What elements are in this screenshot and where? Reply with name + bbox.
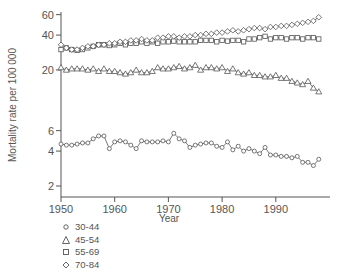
data-point-diamond: [192, 32, 198, 38]
data-point-circle: [75, 142, 79, 146]
data-point-square: [166, 40, 170, 44]
data-point-circle: [70, 143, 74, 147]
data-point-circle: [64, 143, 68, 147]
data-point-circle: [193, 143, 197, 147]
data-point-circle: [129, 143, 133, 147]
mortality-line-chart: 246204060 19501960197019801990 Year Mort…: [0, 0, 338, 274]
data-point-diamond: [311, 18, 317, 24]
data-point-square: [274, 35, 278, 39]
data-point-circle: [268, 153, 272, 157]
data-point-square: [220, 38, 224, 42]
data-point-circle: [204, 141, 208, 145]
data-point-circle: [113, 140, 117, 144]
data-point-circle: [134, 147, 138, 151]
data-point-circle: [220, 145, 224, 149]
data-point-circle: [172, 131, 176, 135]
diamond-marker-icon: [60, 260, 72, 270]
data-point-diamond: [252, 25, 258, 31]
data-point-square: [204, 38, 208, 42]
data-point-circle: [242, 149, 246, 153]
data-point-circle: [118, 139, 122, 143]
legend-label: 55-69: [75, 246, 99, 259]
data-point-triangle: [305, 78, 311, 83]
data-point-circle: [199, 142, 203, 146]
data-point-circle: [215, 144, 219, 148]
data-point-circle: [97, 134, 101, 138]
y-tick-label: 40: [42, 29, 54, 41]
data-point-circle: [123, 140, 127, 144]
data-point-circle: [290, 156, 294, 160]
y-tick-label: 20: [42, 64, 54, 76]
data-point-triangle: [192, 62, 198, 67]
series-layer: [58, 14, 322, 167]
data-point-diamond: [305, 19, 311, 25]
data-point-diamond: [284, 23, 290, 29]
data-point-diamond: [289, 22, 295, 28]
series-30-44: [59, 131, 321, 167]
data-point-square: [247, 37, 251, 41]
data-point-diamond: [198, 32, 204, 38]
data-point-circle: [91, 137, 95, 141]
data-point-diamond: [273, 24, 279, 30]
data-point-circle: [102, 134, 106, 138]
data-point-square: [198, 38, 202, 42]
data-point-circle: [252, 149, 256, 153]
x-tick-label: 1990: [264, 203, 288, 215]
data-point-circle: [145, 140, 149, 144]
data-point-circle: [140, 139, 144, 143]
legend-item-45-54: 45-54: [60, 234, 99, 247]
data-point-square: [306, 35, 310, 39]
y-tick-label: 4: [48, 145, 54, 157]
data-point-circle: [183, 139, 187, 143]
x-tick-label: 1960: [102, 203, 126, 215]
x-tick-label: 1950: [49, 203, 73, 215]
data-point-square: [263, 34, 267, 38]
data-point-circle: [59, 142, 63, 146]
legend: 30-44 45-54 55-69 70-84: [60, 221, 99, 271]
data-point-circle: [236, 144, 240, 148]
data-point-diamond: [187, 34, 193, 40]
data-point-square: [317, 37, 321, 41]
data-point-triangle: [155, 65, 161, 70]
data-point-circle: [274, 153, 278, 157]
data-point-triangle: [289, 78, 295, 83]
legend-label: 70-84: [75, 259, 99, 272]
data-point-circle: [301, 160, 305, 164]
data-point-diamond: [225, 29, 231, 35]
data-point-square: [193, 40, 197, 44]
data-point-circle: [156, 140, 160, 144]
data-point-circle: [107, 147, 111, 151]
legend-item-30-44: 30-44: [60, 221, 99, 234]
circle-marker-icon: [60, 222, 72, 232]
data-point-square: [231, 38, 235, 42]
data-point-circle: [285, 154, 289, 158]
data-point-circle: [80, 141, 84, 145]
data-point-square: [279, 35, 283, 39]
data-point-triangle: [273, 72, 279, 77]
legend-item-70-84: 70-84: [60, 259, 99, 272]
data-point-triangle: [149, 68, 155, 73]
data-point-diamond: [171, 34, 177, 40]
data-point-diamond: [58, 42, 64, 48]
data-point-diamond: [246, 26, 252, 32]
data-point-circle: [263, 145, 267, 149]
square-marker-icon: [60, 247, 72, 257]
data-point-triangle: [90, 66, 96, 71]
x-axis-title: Year: [159, 213, 180, 224]
data-point-triangle: [133, 67, 139, 72]
series-70-84: [58, 14, 321, 52]
y-axis-title: Mortality rate per 100 000: [7, 48, 18, 162]
data-point-square: [155, 41, 159, 45]
data-point-triangle: [176, 63, 182, 68]
data-point-diamond: [262, 26, 268, 32]
data-point-circle: [311, 164, 315, 168]
y-axis: 246204060: [42, 9, 61, 197]
series-45-54: [58, 62, 322, 94]
data-point-square: [268, 37, 272, 41]
data-point-triangle: [58, 65, 64, 70]
data-point-diamond: [209, 31, 215, 37]
data-point-diamond: [316, 14, 322, 20]
data-point-circle: [188, 145, 192, 149]
data-point-diamond: [300, 20, 306, 26]
y-tick-label: 6: [48, 125, 54, 137]
